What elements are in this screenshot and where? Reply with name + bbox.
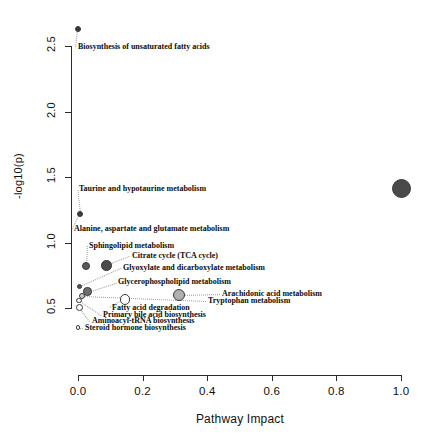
pathway-impact-scatter-plot: 0.51.01.52.02.5 0.00.20.40.60.81.0 -log1… [0, 0, 434, 442]
data-point[interactable] [76, 304, 83, 311]
x-tick-label: 0.4 [187, 385, 227, 397]
point-label: Glyoxylate and dicarboxylate metabolism [123, 263, 265, 272]
y-axis-title: -log10(p) [12, 136, 24, 216]
x-tick [207, 375, 208, 381]
point-label: Steroid hormone biosynthesis [85, 323, 186, 332]
leader-line [80, 268, 122, 287]
y-tick-label: 2.5 [45, 24, 57, 64]
x-tick [401, 375, 402, 381]
data-point[interactable] [120, 294, 130, 304]
data-point[interactable] [101, 260, 111, 270]
point-label: Taurine and hypotaurine metabolism [79, 184, 206, 193]
point-label: Tryptophan metabolism [208, 296, 290, 305]
data-point[interactable] [77, 284, 82, 289]
point-label: Sphingolipid metabolism [89, 241, 174, 250]
point-label: Glycerophospholipid metabolism [118, 277, 231, 286]
x-tick-label: 0.0 [58, 385, 98, 397]
x-tick-label: 0.8 [316, 385, 356, 397]
data-point[interactable] [392, 179, 411, 198]
x-tick-label: 0.2 [123, 385, 163, 397]
x-tick-label: 0.6 [252, 385, 292, 397]
x-axis-line [78, 375, 401, 376]
x-tick-label: 1.0 [381, 385, 421, 397]
y-tick-label: 0.5 [45, 286, 57, 326]
x-tick [78, 375, 79, 381]
y-tick-label: 2.0 [45, 90, 57, 130]
x-axis-title: Pathway Impact [160, 412, 320, 426]
y-tick [65, 308, 72, 309]
y-tick-label: 1.5 [45, 155, 57, 195]
data-point[interactable] [82, 262, 90, 270]
y-tick [65, 177, 72, 178]
data-point[interactable] [77, 211, 83, 217]
leader-line [88, 282, 117, 292]
data-point[interactable] [76, 325, 80, 329]
y-tick [65, 46, 72, 47]
x-tick [336, 375, 337, 381]
point-label: Citrate cycle (TCA cycle) [132, 251, 218, 260]
data-point[interactable] [75, 26, 81, 32]
leader-line [82, 296, 206, 302]
y-tick-label: 1.0 [45, 221, 57, 261]
y-tick [65, 112, 72, 113]
data-point[interactable] [76, 298, 81, 303]
x-tick [272, 375, 273, 381]
x-tick [143, 375, 144, 381]
point-label: Alanine, aspartate and glutamate metabol… [74, 224, 229, 233]
y-tick [65, 243, 72, 244]
point-label: Biosynthesis of unsaturated fatty acids [78, 42, 210, 51]
